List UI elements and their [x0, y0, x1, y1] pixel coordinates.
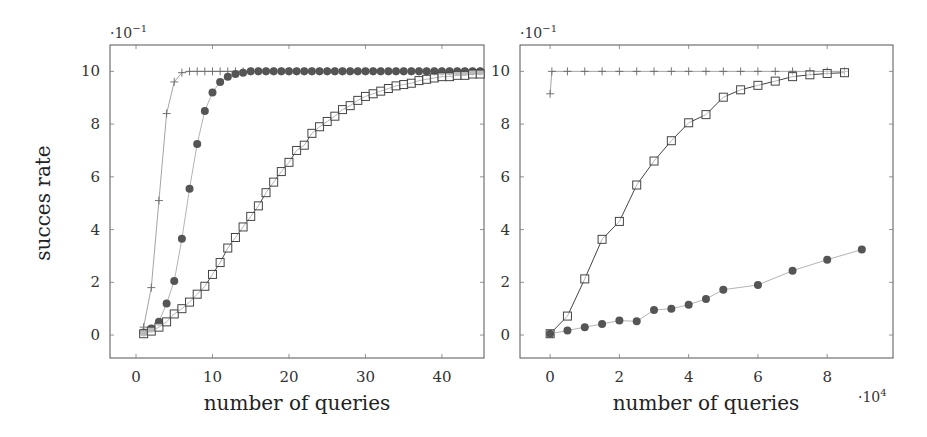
right-x-scale-exp: 4	[880, 387, 886, 398]
right-series-group	[546, 67, 866, 337]
plus-marker	[208, 67, 216, 75]
y-tick-label: 8	[90, 115, 100, 133]
square-marker	[737, 86, 745, 94]
square-marker	[285, 158, 293, 166]
plus-marker	[771, 67, 779, 75]
square-marker	[277, 168, 285, 176]
square-marker	[806, 71, 814, 79]
square-marker	[400, 81, 408, 89]
plus-marker	[685, 67, 693, 75]
square-marker	[438, 73, 446, 81]
circle-marker	[667, 305, 675, 313]
right-x-scale-label: ·104	[858, 387, 887, 405]
square-marker	[239, 223, 247, 231]
circle-marker	[702, 295, 710, 303]
circle-marker	[208, 88, 216, 96]
circle-marker	[339, 67, 347, 75]
plus-marker	[581, 67, 589, 75]
x-tick-label: 20	[279, 368, 298, 386]
plus-marker	[186, 67, 194, 75]
plus-marker	[737, 67, 745, 75]
square-marker	[771, 77, 779, 85]
square-marker	[254, 202, 262, 210]
square-marker	[702, 111, 710, 119]
circle-marker	[392, 67, 400, 75]
circle-marker	[201, 107, 209, 115]
y-tick-label: 0	[500, 326, 510, 344]
circle-marker	[384, 67, 392, 75]
circle-marker	[316, 67, 324, 75]
circle-series	[140, 67, 485, 336]
circle-marker	[415, 67, 423, 75]
square-marker	[308, 129, 316, 137]
x-tick-label: 0	[131, 368, 141, 386]
square-series	[140, 70, 485, 338]
plus-series	[546, 67, 848, 97]
plus-marker	[216, 67, 224, 75]
square-marker	[384, 85, 392, 93]
y-tick-label: 10	[81, 62, 100, 80]
plus-line	[144, 71, 481, 327]
square-marker	[841, 69, 849, 77]
circle-marker	[224, 73, 232, 81]
square-marker	[633, 181, 641, 189]
circle-marker	[407, 67, 415, 75]
circle-marker	[186, 185, 194, 193]
circle-marker	[858, 246, 866, 254]
plus-marker	[546, 90, 554, 98]
circle-marker	[633, 317, 641, 325]
square-marker	[453, 71, 461, 79]
square-series	[546, 69, 848, 338]
square-marker	[581, 275, 589, 283]
circle-marker	[719, 286, 727, 294]
right-panel: 024680246810 ·10−1 ·104 number of querie…	[491, 23, 893, 415]
square-marker	[415, 77, 423, 85]
circle-marker	[270, 67, 278, 75]
left-y-scale-base: ·10	[110, 25, 132, 41]
circle-marker	[163, 299, 171, 307]
plus-marker	[667, 67, 675, 75]
circle-marker	[231, 70, 239, 78]
circle-marker	[323, 67, 331, 75]
square-marker	[469, 70, 477, 78]
square-marker	[201, 282, 209, 290]
plus-marker	[155, 197, 163, 205]
circle-marker	[377, 67, 385, 75]
y-tick-label: 0	[90, 326, 100, 344]
circle-marker	[178, 235, 186, 243]
square-marker	[789, 73, 797, 81]
left-plot-frame	[110, 45, 484, 358]
x-tick-label: 4	[684, 368, 694, 386]
x-tick-label: 10	[203, 368, 222, 386]
square-marker	[147, 327, 155, 335]
y-tick-label: 6	[90, 168, 100, 186]
y-tick-label: 2	[500, 273, 510, 291]
circle-marker	[685, 301, 693, 309]
circle-marker	[308, 67, 316, 75]
left-panel: 0102030400246810 ·10−1 number of queries…	[31, 23, 484, 415]
square-marker	[476, 70, 484, 78]
plus-marker	[615, 67, 623, 75]
square-marker	[216, 259, 224, 267]
circle-line	[550, 250, 862, 334]
circle-marker	[346, 67, 354, 75]
square-marker	[140, 330, 148, 338]
square-marker	[224, 244, 232, 252]
plus-marker	[702, 67, 710, 75]
plus-marker	[563, 67, 571, 75]
square-marker	[331, 112, 339, 120]
circle-marker	[823, 256, 831, 264]
circle-marker	[331, 67, 339, 75]
plus-marker	[201, 67, 209, 75]
right-x-scale-base: ·10	[858, 389, 880, 405]
circle-marker	[170, 277, 178, 285]
left-y-scale-exp: −1	[132, 23, 147, 34]
square-marker	[685, 119, 693, 127]
square-marker	[170, 310, 178, 318]
circle-marker	[354, 67, 362, 75]
square-marker	[247, 212, 255, 220]
right-plot-frame	[520, 45, 893, 358]
square-marker	[423, 75, 431, 83]
y-tick-label: 8	[500, 115, 510, 133]
right-y-scale-base: ·10	[520, 25, 542, 41]
